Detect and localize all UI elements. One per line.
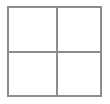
grid-cell-top-left [9,8,56,51]
grid-cell-bottom-left [9,53,56,95]
grid-divider-horizontal [9,51,100,53]
grid-square [7,6,102,97]
grid-cell-bottom-right [58,53,100,95]
grid-cell-top-right [58,8,100,51]
figure-canvas [0,0,110,104]
